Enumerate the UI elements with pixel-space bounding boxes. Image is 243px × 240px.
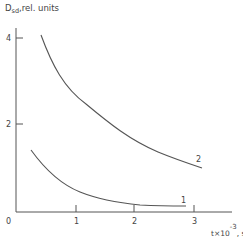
curve-1 — [31, 150, 186, 206]
origin-label: 0 — [6, 217, 11, 226]
x-tick-label-1: 1 — [74, 217, 79, 226]
x-tick-label-2: 2 — [132, 217, 137, 226]
x-axis-label: t×10-3, s — [211, 223, 243, 238]
curve-2-label: 2 — [196, 155, 201, 164]
y-axis-label: Dsd,rel. units — [5, 3, 60, 15]
x-tick-label-3: 3 — [192, 217, 197, 226]
chart: Dsd,rel. units 4 2 0 1 2 3 t×10-3, s 1 2 — [0, 0, 243, 240]
curve-1-label: 1 — [181, 196, 186, 205]
curve-2 — [41, 35, 202, 168]
y-tick-label-2: 2 — [6, 120, 11, 129]
y-tick-label-4: 4 — [6, 34, 11, 43]
